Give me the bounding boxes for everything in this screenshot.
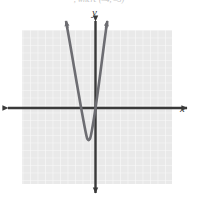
x-axis-label: x — [180, 102, 185, 114]
graph-figure: , where (–4, –5) y x — [0, 0, 198, 198]
parabola-left-arrow — [66, 21, 67, 28]
y-axis-label: y — [92, 6, 97, 18]
parabola-right-arrow — [106, 21, 107, 28]
coordinate-plane — [0, 0, 198, 198]
